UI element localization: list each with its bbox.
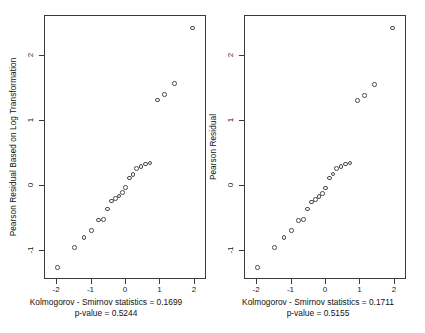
x-tick <box>256 279 257 284</box>
y-tick-label: 2 <box>26 49 35 61</box>
data-point <box>120 190 125 195</box>
x-tick <box>56 279 57 284</box>
x-tick <box>325 279 326 284</box>
data-point <box>362 93 367 98</box>
y-tick <box>39 120 44 121</box>
x-tick <box>159 279 160 284</box>
x-tick-label: 2 <box>192 285 196 294</box>
caption-left: Kolmogorov - Smirnov statistics = 0.1699… <box>0 297 212 319</box>
x-tick-label: 0 <box>323 285 327 294</box>
data-point <box>282 235 287 240</box>
y-tick <box>239 55 244 56</box>
y-tick <box>239 250 244 251</box>
y-tick-label: -1 <box>26 244 35 256</box>
x-tick-label: -1 <box>87 285 94 294</box>
data-point <box>355 98 360 103</box>
ks-statistic-left: Kolmogorov - Smirnov statistics = 0.1699 <box>0 297 212 308</box>
x-tick-label: -1 <box>287 285 294 294</box>
plot-frame-right <box>244 15 406 279</box>
data-point <box>390 26 395 31</box>
x-tick <box>91 279 92 284</box>
x-tick <box>194 279 195 284</box>
p-value-left: p-value = 0.5244 <box>0 308 212 319</box>
data-point <box>55 265 60 270</box>
data-point <box>72 245 77 250</box>
y-tick-label: -1 <box>226 244 235 256</box>
x-tick-label: -2 <box>252 285 259 294</box>
data-point <box>372 82 377 87</box>
panel-left: -2-1012 -1012 Pearson Residual Based on … <box>0 0 212 333</box>
data-point <box>301 217 306 222</box>
data-point <box>82 235 87 240</box>
x-tick-label: 1 <box>157 285 161 294</box>
p-value-right: p-value = 0.5155 <box>212 308 424 319</box>
y-tick-label: 0 <box>226 179 235 191</box>
y-axis-title-right: Pearson Residual <box>209 114 218 180</box>
y-tick-label: 1 <box>26 114 35 126</box>
data-point <box>320 191 325 196</box>
data-point <box>172 81 177 86</box>
data-point <box>305 207 310 212</box>
y-axis-title-left: Pearson Residual Based on Log Transforma… <box>9 58 18 237</box>
data-point <box>101 217 106 222</box>
data-point <box>131 172 136 177</box>
y-tick <box>239 120 244 121</box>
data-point <box>162 92 167 97</box>
x-tick <box>394 279 395 284</box>
y-tick <box>39 55 44 56</box>
y-tick-label: 1 <box>226 114 235 126</box>
y-tick <box>39 185 44 186</box>
ks-statistic-right: Kolmogorov - Smirnov statistics = 0.1711 <box>212 297 424 308</box>
data-point <box>105 207 110 212</box>
panel-right: -2-1012 -1012 Pearson Residual Kolmogoro… <box>212 0 424 333</box>
data-point <box>327 176 332 181</box>
x-tick <box>291 279 292 284</box>
y-tick-label: 2 <box>226 49 235 61</box>
data-point <box>255 265 260 270</box>
data-point <box>190 26 195 31</box>
y-tick-label: 0 <box>26 179 35 191</box>
x-tick-label: 0 <box>123 285 127 294</box>
x-tick <box>359 279 360 284</box>
y-tick <box>239 185 244 186</box>
data-point <box>289 228 294 233</box>
x-tick-label: 1 <box>357 285 361 294</box>
x-tick-label: -2 <box>52 285 59 294</box>
x-tick <box>125 279 126 284</box>
figure-root: -2-1012 -1012 Pearson Residual Based on … <box>0 0 425 333</box>
data-point <box>123 185 128 190</box>
plot-frame-left <box>44 15 206 279</box>
x-tick-label: 2 <box>392 285 396 294</box>
data-point <box>89 228 94 233</box>
caption-right: Kolmogorov - Smirnov statistics = 0.1711… <box>212 297 424 319</box>
y-tick <box>39 250 44 251</box>
data-point <box>272 245 277 250</box>
